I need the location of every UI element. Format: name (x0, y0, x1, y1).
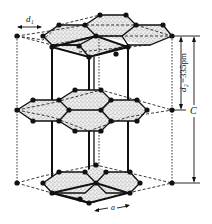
atom (66, 107, 71, 112)
atom (93, 162, 98, 167)
atom (97, 12, 102, 17)
atom (30, 118, 35, 123)
atom (72, 87, 77, 92)
atom (134, 97, 139, 102)
middle-layer (14, 87, 174, 133)
atom (56, 169, 61, 174)
atom (72, 128, 77, 133)
atom (76, 43, 81, 48)
atom (127, 169, 132, 174)
atom (137, 180, 142, 185)
atom (86, 200, 91, 205)
atom (40, 33, 45, 38)
graphite-structure-diagram: d 1 (0, 0, 212, 224)
atom (127, 190, 132, 195)
atom (134, 118, 139, 123)
atom (49, 190, 54, 195)
lattice-a-label: a (111, 203, 115, 212)
atom (160, 22, 165, 27)
atom (98, 128, 103, 133)
atom (108, 118, 113, 123)
atom (14, 180, 19, 185)
atom (56, 22, 61, 27)
atom (56, 118, 61, 123)
atom (93, 33, 98, 38)
atom (108, 97, 113, 102)
atom (40, 180, 45, 185)
interlayer-subscript: 2 (183, 84, 189, 87)
atom (56, 97, 61, 102)
atom (144, 107, 149, 112)
atom (30, 97, 35, 102)
atom (123, 12, 128, 17)
lattice-a-annotation: a (94, 203, 130, 212)
atom (82, 169, 87, 174)
bond-length-annotation: d 1 (17, 14, 42, 29)
atom (14, 107, 19, 112)
atom (98, 107, 103, 112)
lattice-c-label: C (190, 105, 197, 116)
bottom-layer (14, 162, 174, 205)
atom (77, 196, 82, 201)
atom (103, 169, 108, 174)
interlayer-value: =335pm (178, 53, 188, 83)
atom (93, 180, 98, 185)
bond-length-subscript: 1 (31, 19, 34, 25)
atom (133, 22, 138, 27)
atom (82, 22, 87, 27)
atom (113, 51, 118, 56)
atom (98, 87, 103, 92)
top-layer (14, 12, 174, 59)
